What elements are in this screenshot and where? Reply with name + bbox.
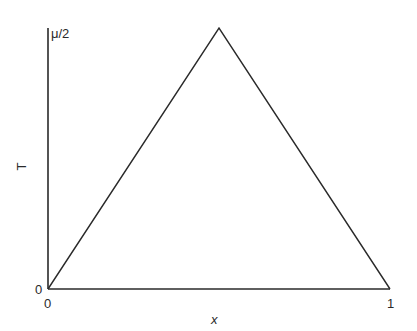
- y-tick-zero: 0: [35, 283, 42, 296]
- x-tick-zero: 0: [44, 297, 51, 310]
- x-tick-one: 1: [387, 297, 394, 310]
- plot-area: [0, 0, 417, 331]
- y-tick-top: μ/2: [51, 27, 69, 40]
- x-axis-label: x: [211, 313, 218, 326]
- y-axis-label: T: [15, 163, 28, 171]
- triangle-curve: [48, 28, 390, 289]
- triangle-chart: μ/2 0 0 1 x T: [0, 0, 417, 331]
